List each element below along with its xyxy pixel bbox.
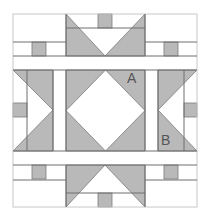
bottom-left-corner-square — [32, 165, 46, 179]
top-center-square — [98, 14, 112, 28]
label-b: B — [161, 132, 170, 148]
top-left-corner-square — [32, 42, 46, 56]
right-middle-square — [184, 103, 197, 117]
left-middle-square — [13, 103, 27, 117]
label-a: A — [127, 70, 137, 86]
top-right-corner-square — [164, 42, 178, 56]
bottom-right-corner-square — [164, 165, 178, 179]
quilt-block-diagram: A B — [0, 0, 209, 219]
bottom-center-square — [98, 193, 112, 207]
